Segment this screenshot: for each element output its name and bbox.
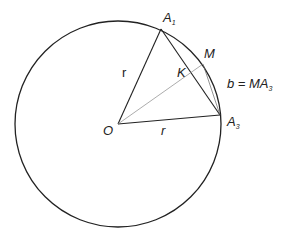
chord-a1-a3 xyxy=(161,29,220,115)
chord-m-a3 xyxy=(203,64,220,115)
label-o: O xyxy=(103,123,113,138)
label-k: K xyxy=(177,65,187,80)
label-a1: A1 xyxy=(162,10,176,26)
label-radius-2: r xyxy=(161,123,166,138)
equation-label: b = MA3 xyxy=(227,76,273,92)
label-radius-1: r xyxy=(122,65,127,80)
geometry-diagram: A1 M K A3 O r r b = MA3 xyxy=(0,0,291,236)
radius-o-a3 xyxy=(118,115,220,124)
label-a3: A3 xyxy=(226,114,240,130)
segment-o-m xyxy=(118,64,203,124)
label-m: M xyxy=(204,46,215,61)
